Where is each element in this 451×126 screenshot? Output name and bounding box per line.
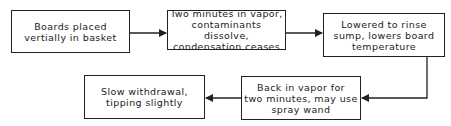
flow-node-vapor-two-minutes: Two minutes in vapor, contaminants disso… [167,10,286,50]
flow-node-slow-withdrawal: Slow withdrawal, tipping slightly [84,75,205,119]
flow-node-rinse-sump: Lowered to rinse sump, lowers board temp… [323,13,445,57]
arrow-n3-n4 [362,57,427,98]
flow-node-back-in-vapor: Back in vapor for two minutes, may use s… [241,76,361,120]
flow-node-boards-placed: Boards placed vertially in basket [11,10,130,53]
